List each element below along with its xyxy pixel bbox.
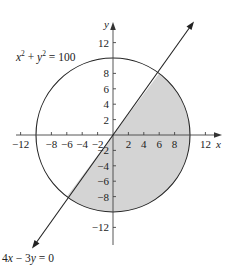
svg-text:6: 6	[104, 83, 110, 95]
svg-text:−4: −4	[76, 138, 88, 150]
svg-text:2: 2	[104, 114, 110, 126]
svg-text:8: 8	[172, 138, 178, 150]
svg-text:2: 2	[126, 138, 132, 150]
line-arrow-up-icon	[187, 22, 195, 31]
svg-text:−6: −6	[97, 175, 109, 187]
circle-equation-label: x2 + y2 = 100	[15, 49, 76, 64]
svg-text:6: 6	[156, 138, 162, 150]
svg-text:−8: −8	[97, 191, 109, 203]
y-axis-arrow-icon	[110, 22, 116, 30]
svg-text:−2: −2	[97, 144, 109, 156]
svg-text:−4: −4	[97, 160, 109, 172]
svg-text:4: 4	[104, 98, 110, 110]
graph-figure: −12 −8 −6 −4 −2 2 4 6 8 12 x 12 8 6 4 2 …	[0, 0, 227, 269]
line-equation-label: 4x − 3y = 0	[2, 252, 54, 265]
svg-text:−12: −12	[92, 221, 109, 233]
svg-text:4: 4	[141, 138, 147, 150]
svg-text:−6: −6	[61, 138, 73, 150]
svg-text:−12: −12	[12, 138, 29, 150]
svg-text:−8: −8	[46, 138, 58, 150]
svg-text:12: 12	[200, 138, 211, 150]
y-axis-label: y	[103, 18, 109, 30]
svg-text:12: 12	[98, 37, 109, 49]
x-axis-arrow-icon	[214, 132, 222, 138]
x-axis-label: x	[215, 138, 221, 150]
line-arrow-down-icon	[32, 240, 40, 249]
svg-text:8: 8	[104, 67, 110, 79]
